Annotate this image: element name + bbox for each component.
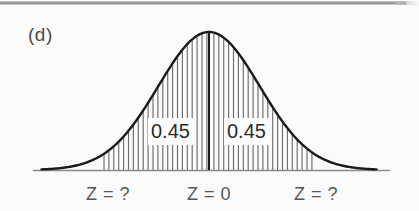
normal-curve-plot xyxy=(0,0,419,211)
area-label-right: 0.45 xyxy=(224,118,269,145)
axis-caption-center: Z = 0 xyxy=(174,183,244,205)
normal-distribution-figure: (d) 0.45 0.45 Z = ? Z = 0 Z = ? xyxy=(0,0,419,211)
area-label-left: 0.45 xyxy=(148,118,193,145)
axis-caption-right: Z = ? xyxy=(281,183,351,205)
axis-caption-left: Z = ? xyxy=(73,183,143,205)
shaded-area-hatching xyxy=(104,33,312,170)
